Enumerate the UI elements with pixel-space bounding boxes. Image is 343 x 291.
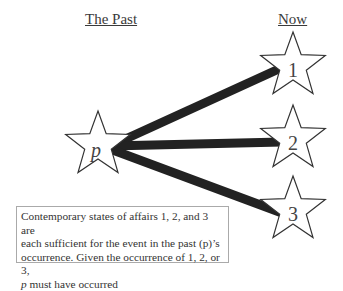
note-line-3: occurrence. Given the occurrence of 1, 2… [21,251,224,278]
edge-p-to-2 [110,142,282,146]
edge-p-to-1 [108,68,281,147]
note-line-2: each sufficient for the event in the pas… [21,237,224,251]
star-label-3: 3 [288,203,298,226]
edges [108,68,282,213]
note-line-1: Contemporary states of affairs 1, 2, and… [21,210,224,237]
note-line-4-rest: must have occurred [27,278,118,290]
star-label-p: p [91,139,101,162]
star-label-1: 1 [288,59,298,82]
explanation-note: Contemporary states of affairs 1, 2, and… [16,206,229,263]
star-label-2: 2 [288,132,298,155]
note-line-4: p must have occurred [21,278,224,291]
edge-p-to-3 [110,149,282,213]
